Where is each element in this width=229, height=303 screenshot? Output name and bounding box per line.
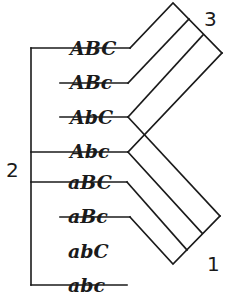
genotype-diagram: ABC ABc AbC Abc aBC aBc abC abc 3 2 1 (0, 0, 229, 303)
group-label-1: 1 (207, 252, 220, 276)
genotype-label-aBc: aBc (68, 205, 108, 227)
genotype-labels: ABC ABc AbC Abc aBC aBc abC abc (68, 37, 116, 296)
genotype-label-abC: abC (68, 240, 109, 262)
fan3-line-AbC (128, 35, 203, 117)
genotype-label-ABC: ABC (68, 37, 116, 59)
fan1-line-aBC (127, 182, 187, 250)
genotype-label-abc: abc (68, 274, 106, 296)
group-label-2: 2 (6, 158, 19, 182)
group-label-3: 3 (204, 7, 217, 31)
fan1-line-Abc (128, 152, 202, 233)
genotype-label-AbC: AbC (68, 106, 113, 128)
genotype-label-ABc: ABc (68, 71, 113, 93)
genotype-label-aBC: aBC (68, 171, 112, 193)
fan3-line-ABc (128, 19, 189, 83)
genotype-label-Abc: Abc (68, 140, 110, 162)
